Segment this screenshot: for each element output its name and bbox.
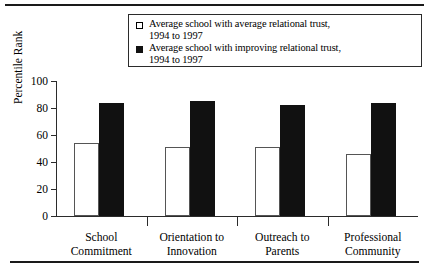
x-tick-mark <box>237 217 238 226</box>
y-tick-mark <box>51 216 56 217</box>
top-rule <box>5 4 424 6</box>
y-tick-label: 100 <box>31 75 48 87</box>
bar-average-trust <box>255 147 280 216</box>
y-tick-mark <box>51 189 56 190</box>
legend-entry-average-trust: Average school with average relational t… <box>136 18 416 41</box>
bottom-rule <box>10 261 419 263</box>
chart-figure: Average school with average relational t… <box>0 0 429 273</box>
y-tick-mark <box>51 81 56 82</box>
y-tick-mark <box>51 162 56 163</box>
legend-label-improving-trust: Average school with improving relational… <box>149 42 341 65</box>
x-tick-mark <box>147 217 148 226</box>
y-tick-mark <box>51 108 56 109</box>
open-square-swatch-icon <box>136 22 143 29</box>
bar-average-trust <box>165 147 190 216</box>
bar-improving-trust <box>371 103 396 216</box>
x-tick-mark <box>328 217 329 226</box>
y-tick-label: 40 <box>37 156 49 168</box>
chart-legend: Average school with average relational t… <box>128 14 422 67</box>
legend-entry-improving-trust: Average school with improving relational… <box>136 42 416 65</box>
legend-label-average-trust: Average school with average relational t… <box>149 18 330 41</box>
bar-improving-trust <box>99 103 124 216</box>
bar-average-trust <box>74 143 99 216</box>
y-tick-label: 60 <box>37 129 49 141</box>
filled-square-swatch-icon <box>136 46 143 53</box>
bar-average-trust <box>346 154 371 216</box>
bar-improving-trust <box>190 101 215 216</box>
y-tick-mark <box>51 135 56 136</box>
plot-area: 020406080100 School CommitmentOrientatio… <box>56 81 418 217</box>
y-tick-label: 0 <box>42 210 48 222</box>
x-category-label: Professional Community <box>318 231 428 258</box>
bar-improving-trust <box>280 105 305 216</box>
y-tick-label: 20 <box>37 183 49 195</box>
y-axis-line <box>56 81 57 217</box>
y-tick-label: 80 <box>37 102 49 114</box>
y-axis-title: Percentile Rank <box>12 0 24 104</box>
